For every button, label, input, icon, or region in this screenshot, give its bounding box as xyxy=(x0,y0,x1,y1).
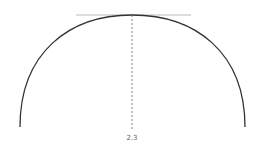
diagram-canvas: 2.3 xyxy=(0,0,259,152)
arc xyxy=(20,15,245,127)
height-label: 2.3 xyxy=(126,134,137,142)
